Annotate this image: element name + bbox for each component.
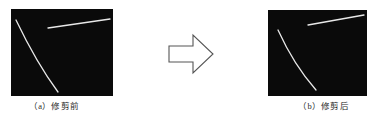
right-arrow-icon-graphic: [168, 33, 214, 75]
caption-after: （b）修剪后: [274, 100, 373, 112]
right-arrow-icon: [168, 33, 214, 75]
image-panel-before-graphic: [11, 9, 113, 96]
panel-background: [11, 9, 113, 96]
figure-container: （a）修剪前 （b）修剪后: [0, 0, 375, 124]
image-panel-after-graphic: [268, 10, 367, 96]
caption-before: （a）修剪前: [3, 100, 105, 112]
panel-group-after: （b）修剪后: [268, 0, 367, 124]
image-panel-after: [268, 10, 367, 96]
image-panel-before: [11, 9, 113, 96]
arrow-shape: [169, 35, 213, 73]
panel-group-before: （a）修剪前: [11, 0, 113, 124]
